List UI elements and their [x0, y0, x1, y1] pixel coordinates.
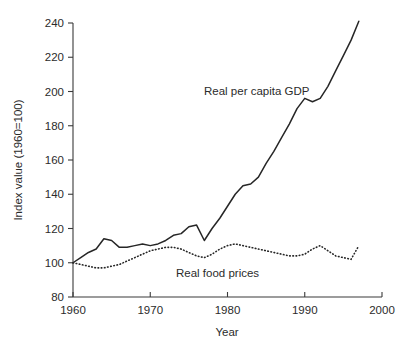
x-tick-label: 1960: [60, 304, 86, 316]
x-axis-ticks: 19601970198019902000: [60, 292, 395, 316]
y-axis-ticks: 80100120140160180200220240: [45, 17, 73, 303]
y-tick-label: 120: [45, 223, 64, 235]
x-tick-label: 1980: [215, 304, 241, 316]
x-axis-title: Year: [215, 326, 238, 338]
series-annotation-gdp: Real per capita GDP: [204, 85, 310, 97]
series-line-2: [73, 244, 359, 268]
line-chart: 80100120140160180200220240 1960197019801…: [0, 0, 406, 346]
x-tick-label: 2000: [369, 304, 395, 316]
y-axis-title: Index value (1960=100): [12, 99, 24, 220]
x-tick-label: 1970: [137, 304, 163, 316]
y-tick-label: 100: [45, 257, 64, 269]
y-tick-label: 80: [51, 291, 64, 303]
y-tick-label: 200: [45, 86, 64, 98]
series-line-1: [73, 21, 359, 262]
y-tick-label: 240: [45, 17, 64, 29]
y-tick-label: 140: [45, 188, 64, 200]
series-annotation-food: Real food prices: [176, 267, 259, 279]
y-tick-label: 160: [45, 154, 64, 166]
chart-container: 80100120140160180200220240 1960197019801…: [0, 0, 406, 346]
x-tick-label: 1990: [292, 304, 318, 316]
y-tick-label: 220: [45, 51, 64, 63]
y-tick-label: 180: [45, 120, 64, 132]
series-paths: [73, 21, 359, 268]
